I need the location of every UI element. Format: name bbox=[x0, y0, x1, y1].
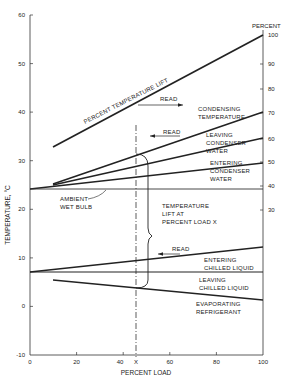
temperature-lift-label: LIFT AT bbox=[162, 211, 184, 217]
x-tick-label: 0 bbox=[28, 359, 32, 365]
ambient-wet-bulb-label: AMBIENT bbox=[60, 196, 88, 202]
read-arrow-middle: READ bbox=[150, 129, 181, 138]
condensing-label: CONDENSING bbox=[198, 106, 241, 112]
y-tick-label: -10 bbox=[16, 352, 25, 358]
x-axis-title: PERCENT LOAD bbox=[121, 369, 172, 376]
y2-tick-label: 30 bbox=[268, 207, 275, 213]
chart: 60 50 40 30 20 10 0 -10 100 90 80 70 60 … bbox=[0, 0, 287, 379]
y-ticks: 60 50 40 30 20 10 0 -10 bbox=[16, 12, 33, 358]
read-label: READ bbox=[163, 129, 181, 135]
evaporating-label: REFRIGERANT bbox=[196, 309, 241, 315]
y2-tick-label: 50 bbox=[268, 159, 275, 165]
leaving-condenser-label: LEAVING bbox=[206, 132, 233, 138]
y2-tick-label: 60 bbox=[268, 136, 275, 142]
percent-lift-line bbox=[53, 35, 263, 147]
x-tick-label: 60 bbox=[166, 359, 173, 365]
y2-axis-title: PERCENT bbox=[252, 23, 281, 29]
y-tick-label: 30 bbox=[18, 158, 25, 164]
ambient-wet-bulb-label: WET BULB bbox=[60, 204, 92, 210]
y2-tick-label: 100 bbox=[268, 32, 279, 38]
leaving-condenser-label: WATER bbox=[206, 148, 228, 154]
leaving-chilled-label: LEAVING bbox=[199, 277, 226, 283]
temperature-lift-bracket bbox=[136, 154, 152, 288]
y-tick-label: 0 bbox=[22, 303, 26, 309]
entering-condenser-label: WATER bbox=[210, 176, 232, 182]
x-marker-label: X bbox=[134, 359, 138, 365]
y2-tick-label: 80 bbox=[268, 86, 275, 92]
read-label: READ bbox=[172, 246, 190, 252]
entering-condenser-label: ENTERING bbox=[210, 160, 243, 166]
entering-condenser-label: CONDENSER bbox=[210, 168, 251, 174]
leaving-chilled-label: CHILLED LIQUID bbox=[199, 285, 249, 291]
read-label: READ bbox=[160, 96, 178, 102]
y2-ticks: 100 90 80 70 60 50 40 30 PERCENT bbox=[252, 23, 281, 213]
y-tick-label: 40 bbox=[18, 109, 25, 115]
x-tick-label: 80 bbox=[213, 359, 220, 365]
ambient-pointer bbox=[88, 190, 106, 199]
evaporating-label: EVAPORATING bbox=[196, 301, 241, 307]
y-tick-label: 60 bbox=[18, 12, 25, 18]
temperature-lift-label: PERCENT LOAD X bbox=[162, 219, 217, 225]
y-tick-label: 10 bbox=[18, 255, 25, 261]
x-tick-label: 20 bbox=[73, 359, 80, 365]
y-tick-label: 20 bbox=[18, 206, 25, 212]
entering-chilled-label: CHILLED LIQUID bbox=[204, 265, 254, 271]
x-tick-label: 100 bbox=[258, 359, 269, 365]
leaving-condenser-label: CONDENSER bbox=[206, 140, 247, 146]
entering-chilled-label: ENTERING bbox=[204, 257, 237, 263]
temperature-lift-label: TEMPERATURE bbox=[162, 203, 209, 209]
y2-tick-label: 90 bbox=[268, 61, 275, 67]
y2-tick-label: 70 bbox=[268, 110, 275, 116]
percent-lift-label: PERCENT TEMPERATURE LIFT bbox=[83, 77, 169, 125]
x-tick-label: 40 bbox=[117, 359, 124, 365]
condensing-label: TEMPERATURE bbox=[198, 114, 245, 120]
y-tick-label: 50 bbox=[18, 61, 25, 67]
read-arrow-bottom: READ bbox=[158, 246, 190, 256]
y2-tick-label: 40 bbox=[268, 183, 275, 189]
y-axis-title: TEMPERATURE, °C bbox=[4, 185, 11, 245]
x-ticks: 0 20 40 X 60 80 100 bbox=[28, 352, 268, 365]
